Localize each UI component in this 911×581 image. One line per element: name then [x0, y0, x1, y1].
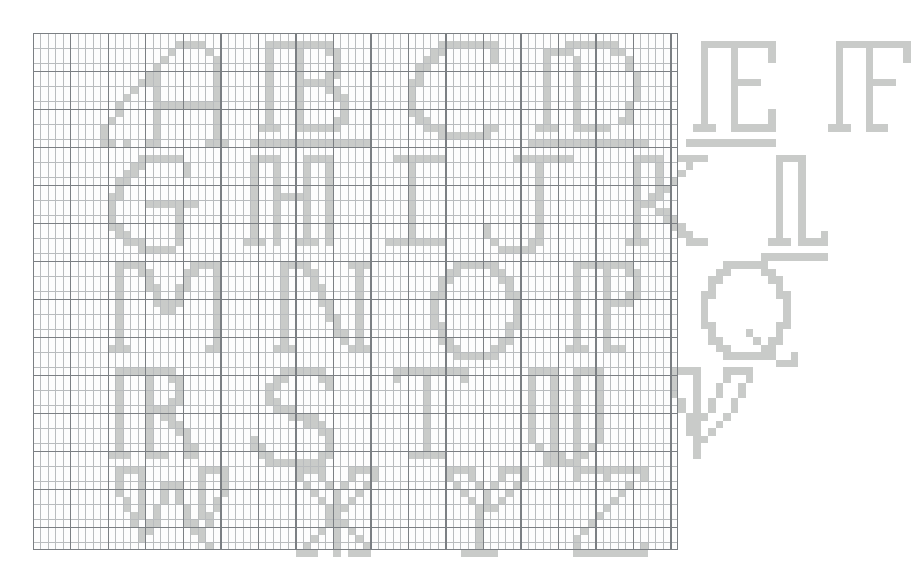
stitch-cell — [566, 41, 574, 49]
stitch-cell — [303, 466, 311, 474]
stitch-cell — [423, 124, 431, 132]
stitch-cell — [266, 124, 274, 132]
stitch-cell — [408, 155, 416, 163]
stitch-cell — [716, 390, 724, 398]
stitch-cell — [183, 443, 191, 451]
stitch-cell — [716, 139, 724, 147]
stitch-cell — [573, 63, 581, 71]
stitch-cell — [258, 139, 266, 147]
stitch-cell — [641, 466, 649, 474]
stitch-cell — [686, 428, 694, 436]
stitch-cell — [693, 367, 701, 375]
stitch-cell — [746, 367, 754, 375]
stitch-cell — [611, 41, 619, 49]
stitch-cell — [416, 367, 424, 375]
stitch-cell — [701, 94, 709, 102]
stitch-cell — [318, 466, 326, 474]
stitch-cell — [603, 139, 611, 147]
stitch-cell — [776, 170, 784, 178]
stitch-cell — [176, 375, 184, 383]
stitch-cell — [213, 132, 221, 140]
stitch-cell — [183, 504, 191, 512]
stitch-cell — [116, 443, 124, 451]
stitch-cell — [326, 231, 334, 239]
stitch-cell — [438, 367, 446, 375]
stitch-cell — [356, 269, 364, 277]
stitch-cell — [746, 79, 754, 87]
stitch-cell — [596, 139, 604, 147]
stitch-cell — [161, 299, 169, 307]
stitch-cell — [213, 56, 221, 64]
stitch-cell — [618, 345, 626, 353]
stitch-cell — [108, 139, 116, 147]
stitch-cell — [633, 550, 641, 558]
stitch-cell — [881, 124, 889, 132]
stitch-cell — [153, 504, 161, 512]
stitch-cell — [146, 200, 154, 208]
stitch-cell — [671, 383, 679, 391]
stitch-cell — [768, 352, 776, 360]
stitch-cell — [438, 238, 446, 246]
stitch-cell — [296, 413, 304, 421]
stitch-cell — [656, 185, 664, 193]
stitch-cell — [303, 41, 311, 49]
stitch-cell — [701, 307, 709, 315]
stitch-cell — [731, 86, 739, 94]
stitch-cell — [633, 94, 641, 102]
stitch-cell — [521, 246, 529, 254]
stitch-cell — [356, 261, 364, 269]
stitch-cell — [573, 101, 581, 109]
stitch-cell — [536, 124, 544, 132]
stitch-cell — [326, 375, 334, 383]
stitch-cell — [168, 48, 176, 56]
stitch-cell — [858, 41, 866, 49]
stitch-cell — [296, 48, 304, 56]
stitch-cell — [296, 238, 304, 246]
stitch-cell — [768, 238, 776, 246]
stitch-cell — [116, 185, 124, 193]
stitch-cell — [198, 481, 206, 489]
stitch-cell — [723, 269, 731, 277]
stitch-cell — [213, 276, 221, 284]
stitch-cell — [453, 352, 461, 360]
stitch-cell — [138, 474, 146, 482]
stitch-cell — [573, 428, 581, 436]
stitch-cell — [138, 261, 146, 269]
stitch-cell — [656, 162, 664, 170]
stitch-cell — [723, 345, 731, 353]
stitch-cell — [311, 550, 319, 558]
stitch-cell — [363, 261, 371, 269]
stitch-cell — [626, 101, 634, 109]
stitch-cell — [303, 550, 311, 558]
stitch-cell — [326, 155, 334, 163]
stitch-cell — [296, 86, 304, 94]
stitch-cell — [356, 550, 364, 558]
stitch-cell — [206, 139, 214, 147]
stitch-cell — [266, 101, 274, 109]
stitch-cell — [686, 162, 694, 170]
stitch-cell — [558, 459, 566, 467]
stitch-cell — [438, 284, 446, 292]
stitch-cell — [116, 390, 124, 398]
stitch-cell — [341, 117, 349, 125]
stitch-cell — [866, 101, 874, 109]
stitch-cell — [633, 238, 641, 246]
stitch-cell — [116, 109, 124, 117]
stitch-cell — [183, 276, 191, 284]
stitch-cell — [326, 238, 334, 246]
stitch-cell — [498, 276, 506, 284]
stitch-cell — [603, 345, 611, 353]
stitch-cell — [273, 383, 281, 391]
stitch-cell — [318, 451, 326, 459]
stitch-cell — [213, 117, 221, 125]
stitch-cell — [791, 253, 799, 261]
stitch-cell — [108, 223, 116, 231]
stitch-cell — [333, 542, 341, 550]
stitch-cell — [708, 329, 716, 337]
stitch-cell — [146, 428, 154, 436]
stitch-cell — [491, 261, 499, 269]
stitch-cell — [408, 170, 416, 178]
stitch-cell — [746, 375, 754, 383]
stitch-cell — [881, 41, 889, 49]
stitch-cell — [401, 238, 409, 246]
